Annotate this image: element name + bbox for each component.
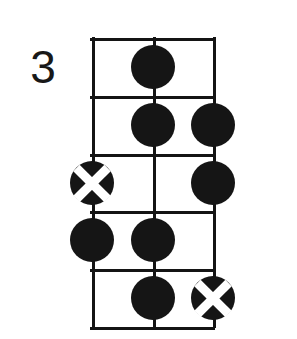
x-marker-icon xyxy=(70,161,114,205)
finger-dot-icon xyxy=(131,103,175,147)
fretboard-grid xyxy=(92,38,213,327)
finger-dot-icon xyxy=(131,45,175,89)
finger-dot-icon xyxy=(131,218,175,262)
finger-dot-icon xyxy=(191,161,235,205)
finger-dot-icon xyxy=(191,103,235,147)
fret-position-label: 3 xyxy=(14,38,72,96)
finger-dot-icon xyxy=(70,218,114,262)
x-marker-icon xyxy=(191,276,235,320)
finger-dot-icon xyxy=(131,276,175,320)
chord-diagram: 3 xyxy=(0,0,297,339)
